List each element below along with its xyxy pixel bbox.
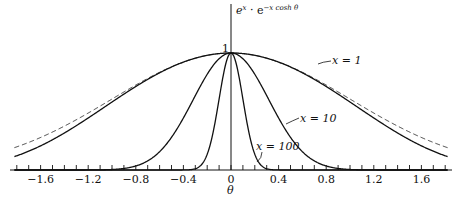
x-ticks: −1.6−1.2−0.8−0.400.40.81.21.6 bbox=[17, 165, 445, 186]
x-tick-label: −0.8 bbox=[122, 173, 149, 186]
axes bbox=[10, 4, 452, 170]
x-tick-label: −1.2 bbox=[75, 173, 102, 186]
y-axis-label: ex · e−x cosh θ bbox=[236, 4, 299, 17]
peak-label: 1 bbox=[222, 42, 229, 55]
x-tick-label: 1.6 bbox=[413, 173, 431, 186]
label-x100: x = 100 bbox=[256, 140, 299, 153]
x-tick-label: −1.6 bbox=[27, 173, 54, 186]
label-x1: x = 1 bbox=[332, 54, 361, 67]
chart: −1.6−1.2−0.8−0.400.40.81.21.6 ex · e−x c… bbox=[0, 0, 459, 198]
x-tick-label: −0.4 bbox=[170, 173, 197, 186]
x-tick-label: 1.2 bbox=[365, 173, 383, 186]
x-axis-label: θ bbox=[227, 184, 234, 197]
x-tick-label: 0.8 bbox=[317, 173, 335, 186]
label-x10: x = 10 bbox=[300, 112, 336, 125]
leader-x10 bbox=[286, 118, 299, 124]
x-tick-label: 0.4 bbox=[270, 173, 288, 186]
leader-x1 bbox=[318, 61, 331, 64]
